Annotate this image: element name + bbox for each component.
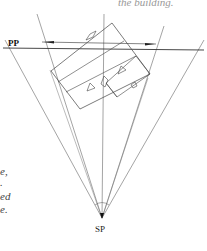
building-wing: [106, 56, 150, 97]
building-tab-top: [86, 31, 96, 40]
building-outline: [51, 23, 150, 109]
dimension-line: [42, 42, 156, 44]
ray-corner-left: [50, 70, 102, 218]
perspective-plan-diagram: [0, 0, 207, 251]
ray-corner-right: [102, 78, 148, 218]
ray-outer-right: [102, 40, 204, 218]
picture-plane-label: PP: [8, 38, 19, 48]
left-text-fragment-4: e.: [0, 203, 8, 215]
station-point-label: SP: [95, 224, 105, 234]
bay-window-2: [101, 76, 108, 87]
left-text-fragment-2: .: [0, 176, 3, 188]
left-text-fragment-3: ed: [0, 190, 10, 202]
bay-window-3: [118, 66, 126, 74]
bay-window-1: [87, 83, 95, 91]
central-line-of-sight: [102, 14, 104, 218]
